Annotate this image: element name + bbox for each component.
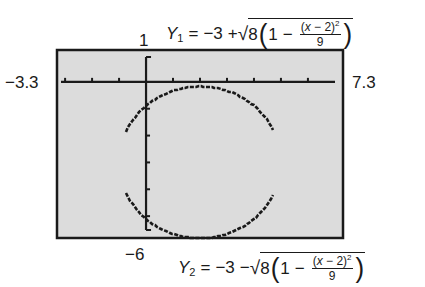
y2-coefficient: 8 (260, 260, 269, 277)
y1-one: 1 (268, 26, 277, 43)
open-paren: ( (259, 20, 268, 47)
y2-sign: − (240, 259, 250, 276)
ymax-label: 1 (139, 32, 148, 49)
equation-y2: Y2 = −3 − √ 8 ( 1 − (x − 2)2 9 ) (178, 252, 365, 282)
sqrt-symbol: √ (238, 24, 248, 43)
y1-equals: = (188, 25, 198, 42)
y1-sign: + (228, 25, 238, 42)
y1-constant: −3 (203, 25, 222, 42)
y2-fraction: (x − 2)2 9 (312, 254, 353, 282)
y1-coefficient: 8 (248, 26, 257, 43)
y1-minus: − (283, 26, 293, 43)
equation-y1: Y1 = −3 + √ 8 ( 1 − (x − 2)2 9 ) (166, 18, 353, 48)
y1-radical: √ 8 ( 1 − (x − 2)2 9 ) (238, 18, 353, 48)
y2-minus: − (295, 260, 305, 277)
y1-fraction: (x − 2)2 9 (300, 20, 341, 48)
y1-subscript: 1 (177, 33, 183, 44)
sqrt-symbol: √ (250, 258, 260, 277)
y2-radical: √ 8 ( 1 − (x − 2)2 9 ) (250, 252, 365, 282)
close-paren: ) (344, 20, 353, 47)
y2-constant: −3 (215, 259, 234, 276)
y2-subscript: 2 (189, 267, 195, 278)
open-paren: ( (271, 254, 280, 281)
close-paren: ) (356, 254, 365, 281)
y2-equals: = (200, 259, 210, 276)
y2-name: Y (178, 259, 189, 276)
y2-one: 1 (280, 260, 289, 277)
ymin-label: −6 (125, 246, 144, 263)
y1-name: Y (166, 25, 177, 42)
xmax-label: 7.3 (352, 74, 376, 91)
xmin-label: −3.3 (5, 74, 39, 91)
